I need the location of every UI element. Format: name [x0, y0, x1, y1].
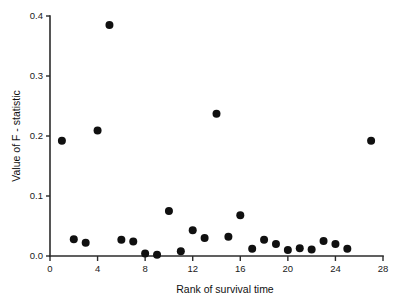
data-point [367, 137, 375, 145]
x-tick-label: 16 [235, 263, 246, 274]
x-tick-label: 28 [378, 263, 389, 274]
y-tick-label: 0.3 [30, 70, 43, 81]
data-point [58, 137, 66, 145]
data-point [70, 235, 78, 243]
data-point [296, 244, 304, 252]
x-tick-label: 24 [330, 263, 341, 274]
y-tick-label: 0.4 [30, 10, 43, 21]
data-point [177, 247, 185, 255]
x-tick-label: 20 [283, 263, 294, 274]
data-point [141, 250, 149, 258]
data-point [94, 127, 102, 135]
data-point [343, 245, 351, 253]
data-point [248, 245, 256, 253]
x-tick-label: 12 [187, 263, 198, 274]
plot-canvas: 0.00.10.20.30.4 0481216202428 Rank of su… [0, 0, 408, 302]
data-point [331, 240, 339, 248]
x-tick-label: 0 [47, 263, 52, 274]
x-tick-label: 4 [95, 263, 100, 274]
y-axis-ticks: 0.00.10.20.30.4 [30, 10, 50, 261]
data-point [236, 211, 244, 219]
y-tick-label: 0.1 [30, 190, 43, 201]
data-point [105, 21, 113, 29]
data-point [117, 236, 125, 244]
x-axis-title: Rank of survival time [176, 283, 274, 295]
x-tick-label: 8 [142, 263, 147, 274]
data-point [213, 110, 221, 118]
data-point [308, 245, 316, 253]
data-point [153, 251, 161, 259]
data-point [320, 237, 328, 245]
data-point [82, 239, 90, 247]
data-point [189, 226, 197, 234]
scatter-plot-figure: 0.00.10.20.30.4 0481216202428 Rank of su… [0, 0, 408, 302]
data-points-group [58, 21, 375, 259]
data-point [165, 207, 173, 215]
y-axis-title: Value of F - statistic [10, 90, 22, 181]
data-point [224, 233, 232, 241]
x-axis-ticks: 0481216202428 [47, 256, 388, 274]
data-point [129, 238, 137, 246]
y-tick-label: 0.0 [30, 250, 43, 261]
data-point [272, 240, 280, 248]
data-point [260, 236, 268, 244]
data-point [201, 234, 209, 242]
data-point [284, 246, 292, 254]
y-tick-label: 0.2 [30, 130, 43, 141]
